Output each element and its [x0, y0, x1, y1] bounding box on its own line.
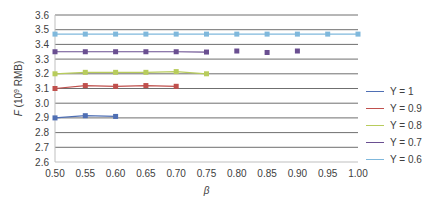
y-tick-label: 3.0	[35, 98, 49, 109]
data-point-marker	[143, 70, 148, 75]
data-point-marker	[204, 32, 209, 37]
y-tick-label: 3.1	[35, 83, 49, 94]
x-tick-label: 0.85	[257, 168, 277, 179]
y-tick-label: 3.3	[35, 54, 49, 65]
x-axis-title: β	[203, 185, 210, 196]
data-point-marker	[143, 83, 148, 88]
data-point-marker	[113, 49, 118, 54]
legend-label: Y = 1	[390, 86, 413, 97]
y-tick-label: 2.6	[35, 157, 49, 168]
series-y-1	[53, 113, 119, 120]
data-point-marker	[174, 49, 179, 54]
data-point-marker	[265, 32, 270, 37]
data-point-marker	[53, 32, 58, 37]
data-point-marker	[113, 32, 118, 37]
legend-swatch	[366, 142, 384, 143]
data-point-marker	[174, 84, 179, 89]
legend-item: Y = 0.8	[366, 117, 422, 134]
data-point-marker	[53, 49, 58, 54]
data-point-marker	[295, 49, 300, 54]
data-point-marker	[113, 70, 118, 75]
x-tick-label: 1.00	[348, 168, 368, 179]
x-tick-label: 0.65	[136, 168, 156, 179]
data-point-marker	[265, 50, 270, 55]
legend-label: Y = 0.7	[390, 137, 422, 148]
y-tick-label: 3.2	[35, 68, 49, 79]
data-point-marker	[53, 115, 58, 120]
x-tick-label: 0.60	[106, 168, 126, 179]
data-point-marker	[204, 71, 209, 76]
data-point-marker	[143, 32, 148, 37]
data-point-marker	[113, 84, 118, 89]
data-point-marker	[234, 49, 239, 54]
data-point-marker	[53, 86, 58, 91]
legend-item: Y = 1	[366, 83, 422, 100]
series-y-0-7	[53, 49, 300, 55]
data-point-marker	[356, 32, 361, 37]
data-point-marker	[143, 49, 148, 54]
legend-swatch	[366, 159, 384, 160]
y-tick-label: 2.9	[35, 112, 49, 123]
data-point-marker	[83, 83, 88, 88]
legend-label: Y = 0.8	[390, 120, 422, 131]
series-y-0-9	[53, 83, 179, 91]
legend-swatch	[366, 91, 384, 92]
data-point-marker	[83, 32, 88, 37]
x-tick-label: 0.75	[197, 168, 217, 179]
y-tick-label: 3.4	[35, 39, 49, 50]
y-axis-ticks: 2.62.72.82.93.03.13.23.33.43.53.6	[35, 10, 49, 168]
legend: Y = 1Y = 0.9Y = 0.8Y = 0.7Y = 0.6	[366, 83, 422, 168]
legend-swatch	[366, 125, 384, 126]
data-point-marker	[174, 32, 179, 37]
series-group	[53, 32, 361, 121]
x-tick-label: 0.95	[318, 168, 338, 179]
x-tick-label: 0.70	[166, 168, 186, 179]
x-tick-label: 0.50	[45, 168, 65, 179]
data-point-marker	[234, 32, 239, 37]
data-point-marker	[83, 49, 88, 54]
x-axis-ticks: 0.500.550.600.650.700.750.800.850.900.95…	[45, 168, 368, 179]
legend-item: Y = 0.9	[366, 100, 422, 117]
data-point-marker	[204, 50, 209, 55]
data-point-marker	[83, 113, 88, 118]
y-tick-label: 2.8	[35, 127, 49, 138]
legend-item: Y = 0.6	[366, 151, 422, 168]
series-y-0-6	[53, 32, 361, 37]
x-tick-label: 0.55	[76, 168, 96, 179]
data-point-marker	[113, 114, 118, 119]
x-tick-label: 0.90	[288, 168, 308, 179]
x-tick-label: 0.80	[227, 168, 247, 179]
y-tick-label: 2.7	[35, 142, 49, 153]
legend-item: Y = 0.7	[366, 134, 422, 151]
y-axis-title: F (109 RMB)	[13, 61, 25, 117]
data-point-marker	[83, 70, 88, 75]
data-point-marker	[295, 32, 300, 37]
data-point-marker	[325, 32, 330, 37]
data-point-marker	[53, 71, 58, 76]
series-y-0-8	[53, 69, 210, 76]
legend-label: Y = 0.6	[390, 154, 422, 165]
y-tick-label: 3.6	[35, 10, 49, 21]
data-point-marker	[174, 69, 179, 74]
legend-label: Y = 0.9	[390, 103, 422, 114]
legend-swatch	[366, 108, 384, 109]
y-tick-label: 3.5	[35, 24, 49, 35]
